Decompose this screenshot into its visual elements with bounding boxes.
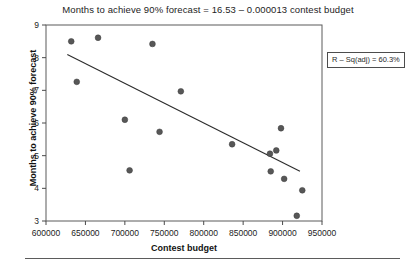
x-axis-title: Contest budget [46, 243, 322, 253]
data-point-3[interactable] [150, 41, 156, 47]
regression-fit-line [67, 54, 300, 171]
data-point-12[interactable] [278, 125, 284, 131]
data-point-15[interactable] [299, 187, 305, 193]
x-tick-label-650000: 650000 [71, 228, 100, 238]
data-point-0[interactable] [68, 38, 74, 44]
data-point-1[interactable] [95, 35, 101, 41]
data-point-2[interactable] [74, 79, 80, 85]
data-point-13[interactable] [281, 176, 287, 182]
footer-divider [25, 258, 400, 259]
data-point-10[interactable] [273, 148, 279, 154]
data-point-14[interactable] [294, 213, 300, 219]
data-point-9[interactable] [267, 151, 273, 157]
plot-area: 3456789600000650000700000750000800000850… [0, 0, 416, 266]
x-tick-label-900000: 900000 [268, 228, 297, 238]
r-squared-adjusted-annotation: R – Sq(adj) = 60.3% [327, 52, 405, 68]
data-point-6[interactable] [157, 129, 163, 135]
x-tick-label-750000: 750000 [150, 228, 179, 238]
x-tick-label-950000: 950000 [308, 228, 337, 238]
x-tick-label-850000: 850000 [229, 228, 258, 238]
data-point-8[interactable] [229, 141, 235, 147]
fitted-line-plot-figure: Months to achieve 90% forecast = 16.53 –… [0, 0, 416, 266]
y-tick-label-3: 3 [34, 216, 39, 226]
data-point-7[interactable] [178, 88, 184, 94]
data-point-4[interactable] [122, 117, 128, 123]
x-tick-label-600000: 600000 [32, 228, 61, 238]
x-tick-label-700000: 700000 [111, 228, 140, 238]
x-tick-label-800000: 800000 [190, 228, 219, 238]
data-point-5[interactable] [127, 167, 133, 173]
data-point-11[interactable] [268, 168, 274, 174]
plot-frame [46, 25, 322, 221]
y-axis-title: Months to achieve 90% forecast [28, 23, 38, 213]
